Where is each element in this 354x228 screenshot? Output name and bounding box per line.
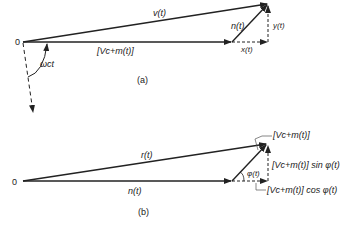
phi-label: φ(t): [247, 170, 260, 178]
r-label: r(t): [141, 151, 153, 160]
origin-label-a: 0: [15, 38, 20, 47]
diagram-b: [23, 136, 272, 190]
rotating-reference: [23, 43, 33, 112]
x-label: x(t): [241, 46, 253, 54]
angle-label: ωct: [40, 60, 54, 69]
cos-label: [Vc+m(t)] cos φ(t): [267, 186, 337, 195]
sin-label: [Vc+m(t)] sin φ(t): [272, 161, 340, 170]
carrier-label-a: [Vc+m(t)]: [97, 47, 134, 56]
cos-leader: [256, 183, 266, 190]
y-label: y(t): [273, 22, 285, 30]
v-label: v(t): [153, 9, 166, 18]
n-label-a: n(t): [231, 22, 245, 31]
origin-label-b: 0: [12, 178, 17, 187]
phi-arc: [240, 172, 244, 181]
n-label-b: n(t): [128, 187, 142, 196]
caption-b: (b): [138, 208, 149, 217]
amplitude-label: [Vc+m(t)]: [273, 131, 310, 140]
caption-a: (a): [137, 76, 148, 85]
